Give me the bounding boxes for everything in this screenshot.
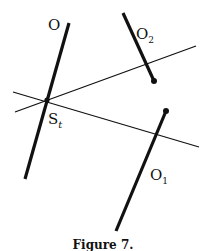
- label-St: St: [48, 110, 63, 130]
- label-O2-main: O: [136, 25, 148, 43]
- label-O1-subscript: 1: [162, 176, 168, 186]
- diagram-canvas: O O2 St O1 Figure 7.: [0, 0, 209, 251]
- endpoint-O1-dot: [163, 108, 169, 114]
- label-O: O: [48, 16, 60, 34]
- label-St-subscript: t: [58, 119, 63, 130]
- label-O1: O1: [150, 166, 168, 186]
- line-upper: [15, 46, 196, 112]
- point-St-dot: [44, 97, 49, 102]
- label-O2: O2: [136, 25, 154, 45]
- endpoint-O2-dot: [151, 78, 157, 84]
- label-O2-subscript: 2: [148, 35, 154, 45]
- label-O1-main: O: [150, 166, 162, 184]
- figure-caption: Figure 7.: [73, 238, 134, 251]
- label-St-main: S: [48, 110, 58, 128]
